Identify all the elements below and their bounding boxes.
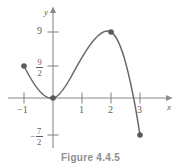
marked-points [21,29,143,138]
x-tick-label-3: 3 [137,105,142,115]
fraction-stack: 9 2 [36,58,43,77]
function-curve [24,31,140,135]
fraction-denominator: 2 [36,137,42,146]
point-local-minimum [50,95,56,101]
fraction-numerator: 9 [36,58,42,67]
point-left-endpoint [21,63,27,69]
x-axis [8,95,173,101]
fraction-stack: 7 2 [36,127,43,146]
fraction-denominator: 2 [36,68,42,77]
y-tick-label-neg-seven-halves: − 7 2 [30,127,43,146]
y-tick-label-9: 9 [37,26,42,36]
figure-caption: Figure 4.4.5 [0,152,181,163]
graph-canvas [0,0,181,163]
x-tick-label-neg1: −1 [17,105,28,115]
figure-container: y x −1 1 2 3 9 9 2 − 7 2 Figure 4.4.5 [0,0,181,163]
fraction-numerator: 7 [36,127,42,136]
point-local-maximum [108,29,114,35]
x-tick-label-1: 1 [79,105,84,115]
x-axis-label: x [167,103,171,112]
point-right-endpoint [137,132,143,138]
y-axis [50,7,56,149]
y-tick-label-nine-halves: 9 2 [36,58,43,77]
fraction-minus-sign: − [30,132,35,141]
y-axis-label: y [44,8,48,17]
x-tick-label-2: 2 [108,105,113,115]
